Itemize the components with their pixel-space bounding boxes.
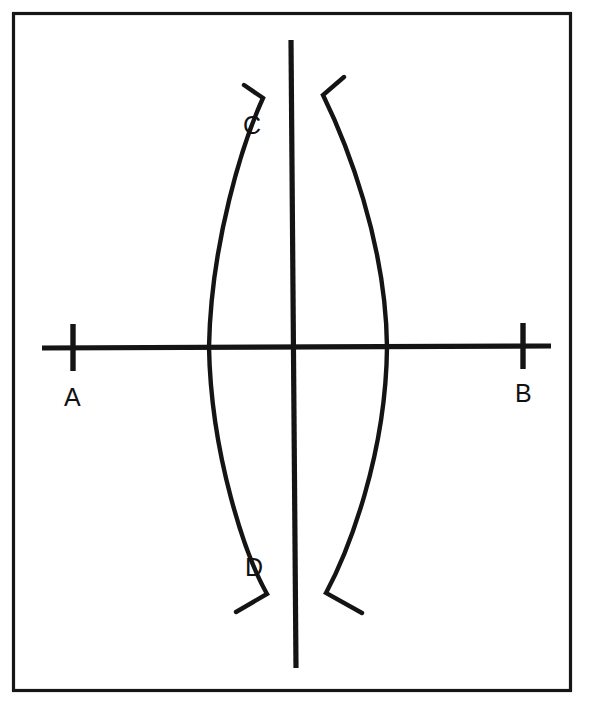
label-point-a: A [64, 383, 81, 411]
label-point-c: C [243, 111, 261, 139]
construction-canvas: A B C D [0, 0, 590, 707]
geometry-figure: A B C D [0, 0, 590, 707]
segment-ab [42, 346, 551, 348]
label-point-b: B [515, 379, 532, 407]
label-point-d: D [245, 553, 263, 581]
